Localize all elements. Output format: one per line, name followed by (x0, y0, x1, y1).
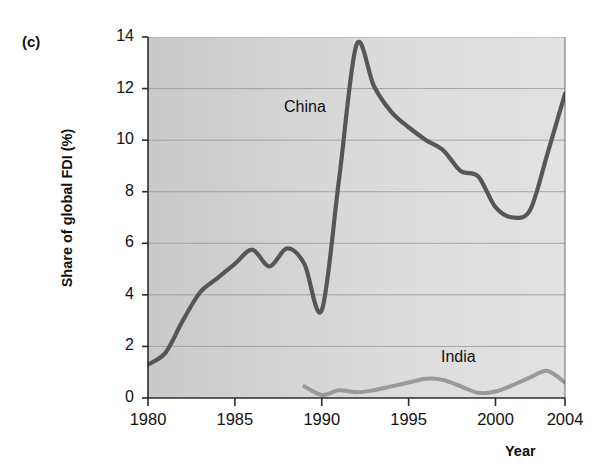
panel-label: (c) (22, 33, 40, 50)
y-tick-label-4: 4 (104, 285, 134, 303)
x-tick-label-1985: 1985 (208, 410, 262, 429)
y-tick-label-12: 12 (104, 79, 134, 97)
x-tick-label-1980: 1980 (121, 410, 175, 429)
series-label-china: China (284, 98, 326, 116)
x-tick-label-1990: 1990 (295, 410, 349, 429)
axis-lines (120, 20, 590, 420)
y-tick-label-0: 0 (104, 388, 134, 406)
x-tick-label-2004: 2004 (538, 410, 592, 429)
y-axis-title: Share of global FDI (%) (59, 83, 75, 333)
y-tick-label-14: 14 (104, 27, 134, 45)
y-tick-label-2: 2 (104, 336, 134, 354)
x-tick-label-2000: 2000 (469, 410, 523, 429)
series-label-india: India (441, 348, 476, 366)
figure-panel-c: (c) Share of global FDI (%) Year 0246810… (0, 0, 601, 474)
x-axis-title: Year (505, 443, 536, 459)
x-tick-label-1995: 1995 (382, 410, 436, 429)
y-tick-label-10: 10 (104, 130, 134, 148)
y-tick-label-8: 8 (104, 182, 134, 200)
y-tick-label-6: 6 (104, 233, 134, 251)
